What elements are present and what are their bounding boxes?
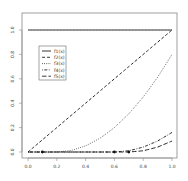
x-axis: 0.00.20.40.60.81.0 [24, 158, 175, 169]
data-point-marker [127, 151, 130, 154]
series-line-5 [28, 141, 172, 152]
legend-label: f2(x) [54, 55, 65, 60]
legend-label: f4(x) [54, 68, 65, 73]
y-axis: 0.00.20.40.60.81.0 [10, 26, 22, 155]
plot-frame [22, 13, 177, 158]
line-chart: 0.00.20.40.60.81.0 0.00.20.40.60.81.0 f1… [0, 0, 188, 181]
x-tick-label: 0.6 [111, 164, 118, 169]
y-tick-label: 1.0 [10, 26, 15, 33]
data-point-marker [113, 151, 116, 154]
x-tick-label: 0.4 [82, 164, 89, 169]
legend: f1(x)f2(x)f3(x)f4(x)f5(x) [39, 46, 66, 80]
y-tick-label: 0.0 [10, 148, 15, 155]
y-tick-label: 0.2 [10, 124, 15, 131]
legend-label: f3(x) [54, 61, 65, 66]
data-point-marker [41, 151, 44, 154]
series-line-4 [28, 132, 172, 152]
x-tick-label: 0.2 [53, 164, 60, 169]
legend-label: f5(x) [54, 74, 65, 79]
x-tick-label: 0.0 [24, 164, 31, 169]
y-tick-label: 0.8 [10, 51, 15, 58]
x-tick-label: 0.8 [140, 164, 147, 169]
legend-label: f1(x) [54, 49, 65, 54]
y-tick-label: 0.4 [10, 99, 15, 106]
y-tick-label: 0.6 [10, 75, 15, 82]
x-tick-label: 1.0 [168, 164, 175, 169]
